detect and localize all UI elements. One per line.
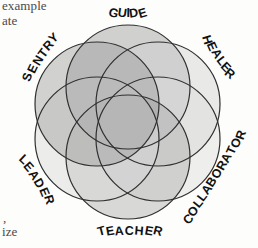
venn-label-teacher: TEACHER	[99, 224, 162, 238]
venn-label-guide: GUIDE	[107, 6, 149, 20]
venn-diagram: GUIDEHEALERCOLLABORATORTEACHERLEADERSENT…	[0, 0, 258, 248]
venn-circle-group	[35, 25, 220, 219]
venn-circles-svg	[0, 0, 258, 248]
